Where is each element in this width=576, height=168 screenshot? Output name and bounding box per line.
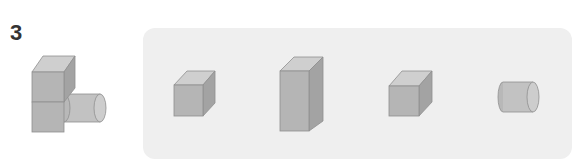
lower-cube — [32, 102, 64, 132]
choice-3-cube[interactable] — [388, 70, 434, 118]
choice-4-cylinder[interactable] — [497, 80, 541, 114]
question-number: 3 — [10, 22, 22, 44]
choice-1-cube[interactable] — [173, 70, 219, 118]
choice-2-rectangular-prism[interactable] — [279, 56, 325, 132]
upper-cube — [32, 56, 75, 102]
composite-shape — [28, 52, 114, 138]
choices-panel — [143, 28, 572, 159]
